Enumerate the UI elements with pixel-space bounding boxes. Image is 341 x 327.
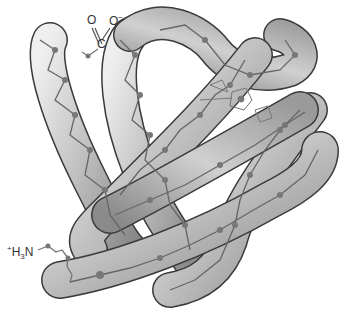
protein-diagram: O O− C +H3N (0, 0, 341, 327)
nitrogen-label: N (25, 245, 34, 259)
protein-tube-illustration (0, 0, 341, 327)
c-terminus-oxygen-2: O− (109, 14, 123, 27)
oxygen-label: O (109, 14, 118, 28)
n-terminus-label: +H3N (7, 245, 33, 261)
negative-charge: − (118, 13, 123, 22)
c-terminus-carbon: C (97, 38, 106, 50)
c-terminus-oxygen-1: O (87, 14, 96, 26)
